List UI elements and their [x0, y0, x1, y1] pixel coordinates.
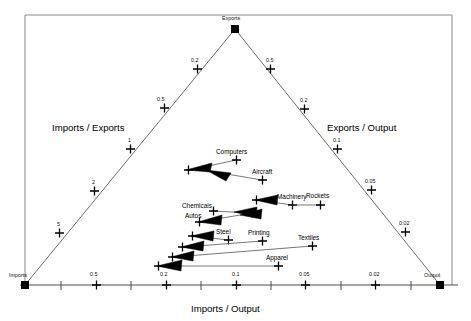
bottom-tick-label-1: 0.2: [160, 271, 168, 277]
left-tick-label-0: 0.2: [191, 57, 199, 63]
right-tick-label-3: 0.05: [365, 178, 376, 184]
right-axis-ticks: 0.5 0.2 0.1 0.05 0.02: [266, 57, 410, 237]
data-label-rockets: Rockets: [306, 192, 329, 199]
right-tick-label-0: 0.5: [266, 57, 274, 63]
data-label-steel: Steel: [216, 228, 231, 235]
data-label-autos: Autos: [185, 212, 201, 219]
left-axis-ticks: 0.2 0.5 1 2 5: [55, 57, 202, 238]
data-label-textiles: Textiles: [298, 234, 319, 241]
left-tick-label-3: 2: [92, 179, 95, 185]
corner-marker-exports: [231, 25, 239, 33]
ternary-diagram-figure: Exports Imports Output 0.2 0.5 1 2 5 0.5…: [0, 0, 471, 321]
data-label-aircraft: Aircraft: [252, 168, 272, 175]
right-axis-title: Exports / Output: [327, 122, 397, 133]
corner-markers: [21, 25, 444, 289]
bottom-axis-ticks: 0.5 0.2 0.1 0.05 0.02: [61, 271, 411, 290]
corner-label-exports: Exports: [222, 15, 241, 21]
ternary-plot-canvas: Exports Imports Output 0.2 0.5 1 2 5 0.5…: [0, 0, 471, 321]
left-axis-title: Imports / Exports: [52, 122, 125, 133]
left-tick-label-1: 0.5: [157, 96, 165, 102]
data-label-apparel: Apparel: [266, 254, 288, 262]
right-tick-label-1: 0.2: [300, 97, 308, 103]
data-label-computers: Computers: [216, 148, 247, 156]
triangle-sides: [20, 29, 458, 285]
right-tick-label-4: 0.02: [399, 220, 410, 226]
bottom-tick-label-2: 0.1: [232, 271, 240, 277]
data-item-computers[interactable]: Computers: [184, 148, 247, 175]
data-label-printing: Printing: [248, 229, 270, 237]
left-tick-label-4: 5: [57, 221, 60, 227]
data-label-chemicals: Chemicals: [182, 202, 212, 209]
data-item-aircraft[interactable]: Aircraft: [206, 168, 272, 185]
right-tick-label-2: 0.1: [333, 137, 341, 143]
corner-label-imports: Imports: [9, 272, 27, 278]
corner-marker-imports: [21, 281, 29, 289]
data-item-machinery[interactable]: Machinery: [252, 193, 307, 210]
corner-label-output: Output: [424, 272, 441, 278]
bottom-tick-label-0: 0.5: [90, 271, 98, 277]
data-item-steel[interactable]: Steel: [188, 228, 233, 245]
left-tick-label-2: 1: [128, 137, 131, 143]
corner-marker-output: [436, 281, 444, 289]
bottom-tick-label-3: 0.05: [299, 271, 310, 277]
data-label-machinery: Machinery: [277, 193, 307, 201]
bottom-axis-title: Imports / Output: [191, 303, 260, 314]
bottom-tick-label-4: 0.02: [369, 271, 380, 277]
